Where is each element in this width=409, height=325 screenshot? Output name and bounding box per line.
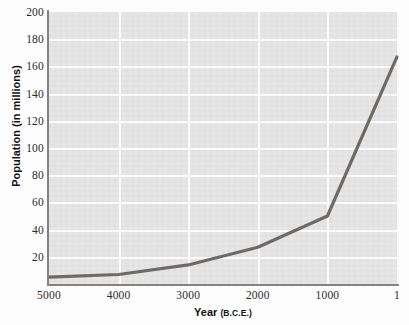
y-axis-line	[47, 10, 49, 286]
y-axis-tick-label: 60	[0, 197, 44, 209]
y-axis-tick-label: 100	[0, 143, 44, 155]
x-axis-tick-label: 4000	[97, 290, 141, 302]
y-axis-tick-label: 40	[0, 225, 44, 237]
y-axis-tick-label: 200	[0, 7, 44, 19]
x-axis-tick-label: 2000	[236, 290, 280, 302]
y-axis-tick-label: 120	[0, 116, 44, 128]
y-axis-title: Population (in millions)	[10, 26, 22, 226]
x-axis-tick-label: 3000	[166, 290, 210, 302]
data-series-layer	[49, 12, 397, 284]
gridline-vertical	[397, 12, 399, 284]
plot-area	[49, 12, 397, 284]
y-axis-tick-label: 140	[0, 89, 44, 101]
population-line-chart: 20018016014012010080604020 5000400030002…	[0, 0, 409, 325]
x-axis-tick-label: 1	[375, 290, 409, 302]
x-axis-tick-label: 1000	[305, 290, 349, 302]
y-axis-tick-labels: 20018016014012010080604020	[0, 0, 44, 325]
x-axis-title-era: (B.C.E.)	[220, 308, 252, 318]
y-axis-title-text: Population (in millions)	[10, 65, 22, 187]
y-axis-tick-label: 80	[0, 170, 44, 182]
x-axis-title-text: Year	[194, 306, 217, 318]
x-axis-tick-label: 5000	[27, 290, 71, 302]
y-axis-tick-label: 20	[0, 252, 44, 264]
x-axis-title: Year (B.C.E.)	[49, 306, 397, 318]
y-axis-tick-label: 180	[0, 34, 44, 46]
y-axis-tick-label: 160	[0, 61, 44, 73]
series-line-world-population	[49, 57, 397, 277]
x-axis-line	[47, 284, 399, 286]
